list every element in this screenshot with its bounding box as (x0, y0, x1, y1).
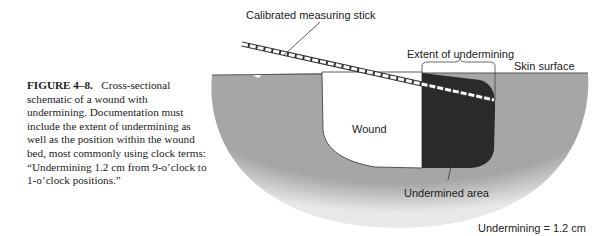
wound-label: Wound (352, 123, 387, 135)
stick-label: Calibrated measuring stick (246, 9, 376, 21)
wound-cavity (322, 72, 422, 168)
skin-label: Skin surface (514, 60, 575, 72)
measurement-label: Undermining = 1.2 cm (478, 222, 586, 234)
wound-diagram: Calibrated measuring stick Extent of und… (0, 0, 608, 236)
undermined-label: Undermined area (404, 187, 490, 199)
extent-label: Extent of undermining (407, 48, 514, 60)
